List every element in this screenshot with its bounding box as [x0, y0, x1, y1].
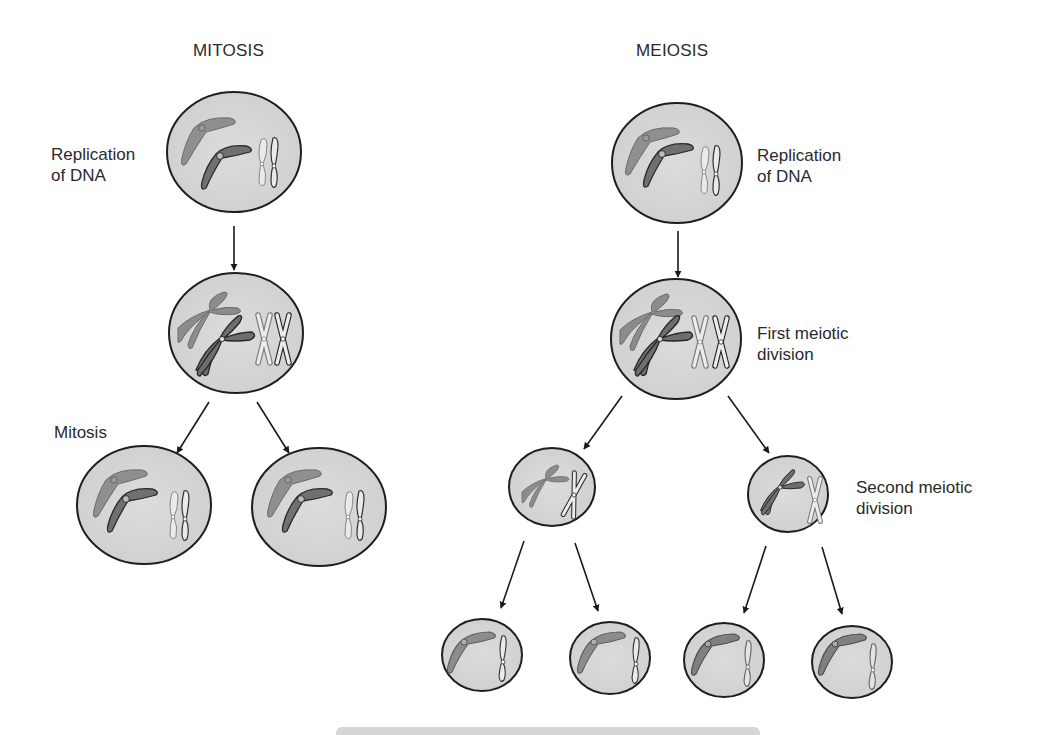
bottom-scroll-bar: [336, 727, 760, 735]
label-meiosis-replication: Replication of DNA: [757, 145, 841, 187]
cell-mitosis-daughter-right: [252, 448, 386, 566]
arrow-meiosis-second-2: [575, 543, 598, 611]
cell-meiosis-gamete-1: [442, 619, 522, 691]
title-mitosis: MITOSIS: [193, 40, 264, 61]
label-meiosis-second-division: Second meiotic division: [856, 477, 972, 519]
title-meiosis: MEIOSIS: [636, 40, 708, 61]
arrow-mitosis-left: [177, 402, 209, 453]
cell-meiosis-gamete-3: [684, 623, 764, 697]
cell-mitosis-parent: [167, 92, 301, 212]
label-meiosis-first-division: First meiotic division: [757, 323, 849, 365]
cell-meiosis-second-right: [748, 456, 828, 532]
cell-meiosis-gamete-2: [570, 622, 650, 694]
cell-meiosis-gamete-4: [812, 626, 892, 698]
arrow-meiosis-second-4: [822, 547, 842, 614]
arrow-mitosis-right: [257, 402, 289, 453]
arrow-meiosis-first-right: [728, 396, 769, 453]
cell-meiosis-parent: [612, 103, 742, 223]
label-mitosis-replication: Replication of DNA: [51, 144, 135, 186]
cell-meiosis-second-left: [509, 448, 595, 526]
cell-meiosis-replicated: [611, 279, 741, 399]
arrow-meiosis-first-left: [584, 396, 622, 449]
arrow-meiosis-second-3: [744, 546, 766, 613]
cell-mitosis-replicated: [169, 273, 303, 393]
label-mitosis-division: Mitosis: [54, 422, 107, 443]
arrow-meiosis-second-1: [501, 541, 524, 608]
cell-mitosis-daughter-left: [77, 446, 211, 564]
